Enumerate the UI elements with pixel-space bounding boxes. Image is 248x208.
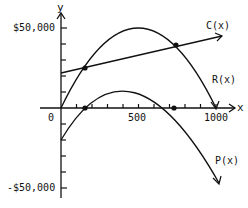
x-tick-label-500: 500 [128, 112, 146, 123]
profit-zero-right [171, 105, 176, 110]
profit-label: P(x) [215, 155, 239, 166]
y-axis-label: y [57, 1, 64, 14]
profit-revenue-cost-chart: y x 0 500 1000 $50,000 -$50,000 C(x) R(x… [0, 0, 248, 208]
revenue-label: R(x) [212, 74, 236, 85]
x-tick-label-1000: 1000 [204, 112, 228, 123]
y-tick-label-neg-50000: -$50,000 [7, 182, 55, 193]
y-tick-label-50000: $50,000 [13, 22, 55, 33]
profit-curve [61, 91, 219, 183]
y-axis [57, 13, 65, 198]
x-axis-label: x [237, 101, 244, 114]
origin-label: 0 [48, 112, 54, 123]
cost-label: C(x) [206, 20, 230, 31]
profit-zero-left [82, 105, 87, 110]
x-axis [40, 104, 235, 112]
intersection-point-right [173, 42, 178, 47]
intersection-point-left [82, 65, 87, 70]
